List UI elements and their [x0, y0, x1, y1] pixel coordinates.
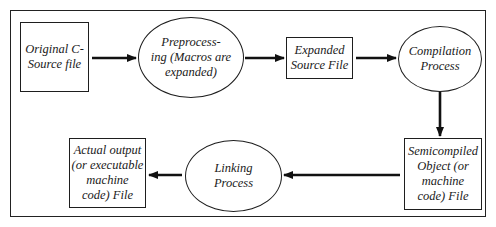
node-label: Linking Process — [214, 161, 253, 191]
node-original-source-file: Original C- Source file — [20, 22, 89, 92]
node-linking-process: Linking Process — [185, 140, 282, 212]
node-expanded-source-file: Expanded Source File — [286, 37, 353, 79]
node-compilation-process: Compilation Process — [398, 26, 482, 92]
node-label: Original C- Source file — [25, 42, 84, 72]
node-label: Preprocess- ing (Macros are expanded) — [151, 35, 231, 80]
node-label: Compilation Process — [409, 44, 472, 74]
node-semicompiled-object-file: Semicompiled Object (or machine code) Fi… — [404, 138, 482, 210]
node-actual-output-file: Actual output (or executable machine cod… — [69, 138, 146, 208]
node-label: Expanded Source File — [291, 43, 349, 73]
node-label: Semicompiled Object (or machine code) Fi… — [408, 144, 478, 204]
node-label: Actual output (or executable machine cod… — [72, 143, 144, 203]
node-preprocessing: Preprocess- ing (Macros are expanded) — [138, 17, 244, 98]
